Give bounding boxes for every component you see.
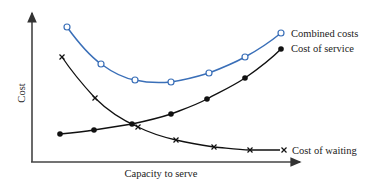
filled-circle-marker bbox=[57, 131, 63, 137]
open-circle-marker bbox=[278, 30, 284, 36]
series-cost-of-waiting bbox=[60, 55, 287, 153]
series-cost-of-service bbox=[57, 46, 284, 137]
filled-circle-marker bbox=[168, 111, 174, 117]
x-axis-label: Capacity to serve bbox=[125, 168, 198, 179]
open-circle-marker bbox=[98, 61, 104, 67]
legend-cost-of-waiting: Cost of waiting bbox=[292, 145, 357, 156]
filled-circle-marker bbox=[278, 46, 284, 52]
series-combined-costs bbox=[64, 24, 284, 85]
open-circle-marker bbox=[168, 79, 174, 85]
open-circle-marker bbox=[64, 24, 70, 30]
y-axis-label: Cost bbox=[16, 83, 27, 102]
cost-tradeoff-chart: Cost Capacity to serve Combined costs Co… bbox=[0, 0, 379, 184]
filled-circle-marker bbox=[91, 127, 97, 133]
legend-cost-of-service: Cost of service bbox=[291, 43, 354, 54]
open-circle-marker bbox=[242, 54, 248, 60]
open-circle-marker bbox=[132, 77, 138, 83]
filled-circle-marker bbox=[204, 96, 210, 102]
legend-combined-costs: Combined costs bbox=[291, 28, 358, 39]
filled-circle-marker bbox=[242, 75, 248, 81]
x-markers bbox=[60, 55, 287, 153]
open-circle-marker bbox=[206, 70, 212, 76]
